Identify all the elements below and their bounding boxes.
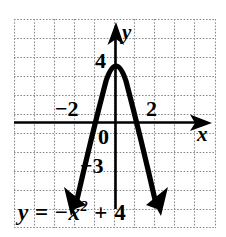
graph-figure: y x 4 −2 2 0 −3 y = −x2 + 4 <box>0 0 226 237</box>
parabola-right-arrowhead <box>146 187 168 216</box>
equation-equals: = <box>35 200 49 225</box>
equation-caption: y = −x2 + 4 <box>18 198 126 226</box>
y-axis-label: y <box>122 22 131 43</box>
parabola-curve <box>14 19 216 228</box>
tick-label-x-2: 2 <box>146 98 157 120</box>
equation-lhs: y <box>18 200 29 225</box>
equation-rhs-sign: − <box>55 200 69 225</box>
equation-rhs-constant: 4 <box>114 200 126 225</box>
origin-label: 0 <box>98 126 109 148</box>
plot-area <box>14 19 216 228</box>
tick-label-y-negative-3: −3 <box>80 155 104 177</box>
equation-rhs-variable: x <box>68 200 80 225</box>
x-axis-label: x <box>197 124 208 145</box>
tick-label-y-4: 4 <box>95 50 106 72</box>
tick-label-x-negative-2: −2 <box>55 98 79 120</box>
equation-rhs-exponent: 2 <box>80 198 88 214</box>
parabola-path <box>76 66 156 204</box>
equation-rhs-plus: + <box>94 200 108 225</box>
